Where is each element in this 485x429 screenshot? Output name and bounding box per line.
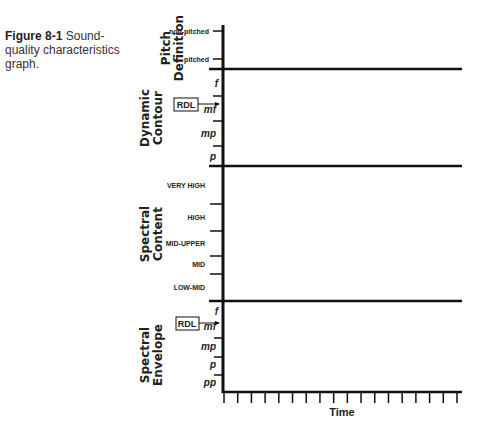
svg-text:RDL: RDL [177,100,196,110]
svg-text:Pitch: Pitch [159,31,173,65]
section-title-spectral-envelope: Spectral Envelope [138,324,165,386]
svg-text:Dynamic: Dynamic [138,89,152,147]
svg-text:Content: Content [151,207,165,261]
tick-label: f [215,78,220,89]
x-axis-label: Time [329,406,354,418]
tick-label: MID-UPPER [166,240,205,247]
dynamic-contour-scale: f mf mp p [201,78,223,162]
svg-text:Spectral: Spectral [138,206,152,262]
tick-label: mp [201,128,216,139]
tick-label: p [209,151,216,162]
tick-label: pp [203,377,216,388]
tick-label: LOW-MID [174,284,205,291]
tick-label: VERY HIGH [167,182,205,189]
tick-label: f [215,306,220,317]
svg-text:Envelope: Envelope [151,324,165,386]
svg-text:Spectral: Spectral [138,327,152,383]
spectral-envelope-scale: f mf mp p pp [201,306,223,388]
tick-label: p [209,359,216,370]
section-title-spectral-content: Spectral Content [138,206,165,262]
svg-text:RDL: RDL [178,319,197,329]
tick-label: pitched [184,56,209,64]
arrow-icon [215,102,220,106]
tick-label: HIGH [188,214,206,221]
tick-label: mp [201,341,216,352]
section-title-dynamic-contour: Dynamic Contour [138,89,165,147]
time-axis-ticks [224,392,457,403]
sound-quality-graph: Pitch Definition Dynamic Contour Spectra… [0,0,485,429]
section-title-pitch-definition: Pitch Definition [159,15,186,81]
arrow-icon [215,321,220,325]
svg-text:Contour: Contour [151,91,165,145]
tick-label: non-pitched [169,28,209,36]
spectral-content-scale: VERY HIGH HIGH MID-UPPER MID LOW-MID [166,182,223,291]
svg-text:Definition: Definition [172,15,186,81]
tick-label: MID [192,261,205,268]
